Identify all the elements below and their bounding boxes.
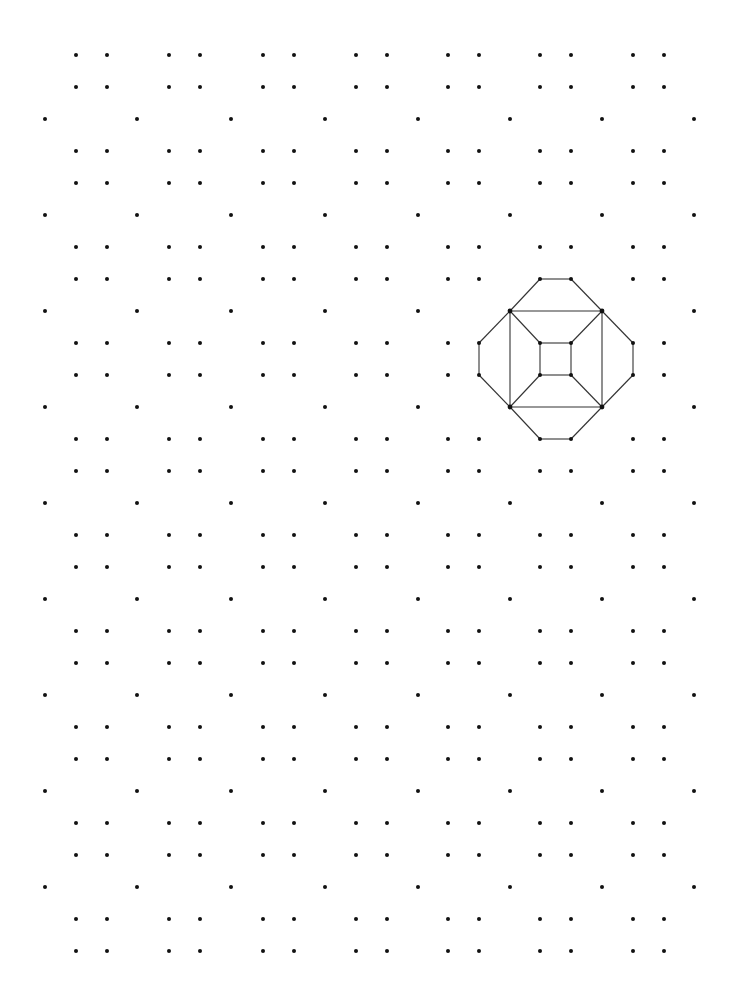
grid-dot xyxy=(74,181,78,185)
grid-dot xyxy=(600,597,604,601)
grid-dot xyxy=(662,821,666,825)
grid-dot xyxy=(261,949,265,953)
grid-dot xyxy=(43,405,47,409)
grid-dot xyxy=(538,725,542,729)
grid-dot xyxy=(662,469,666,473)
grid-dot xyxy=(74,565,78,569)
grid-dot xyxy=(105,85,109,89)
figure-vertex xyxy=(600,309,605,314)
grid-dot xyxy=(692,789,696,793)
grid-dot xyxy=(43,789,47,793)
grid-dot xyxy=(569,629,573,633)
grid-dot xyxy=(354,437,358,441)
grid-dot xyxy=(416,693,420,697)
grid-dot xyxy=(74,533,78,537)
grid-dot xyxy=(167,725,171,729)
grid-dot xyxy=(385,725,389,729)
figure-vertex xyxy=(538,373,542,377)
grid-dot xyxy=(662,85,666,89)
grid-dot xyxy=(477,469,481,473)
grid-dot xyxy=(538,565,542,569)
grid-dot xyxy=(105,469,109,473)
grid-dot xyxy=(43,213,47,217)
grid-dot xyxy=(105,437,109,441)
grid-dot xyxy=(477,917,481,921)
grid-dot xyxy=(662,437,666,441)
grid-dot xyxy=(569,725,573,729)
grid-dot xyxy=(446,149,450,153)
grid-dot xyxy=(198,53,202,57)
grid-dot xyxy=(105,725,109,729)
grid-dot xyxy=(631,437,635,441)
grid-dot xyxy=(105,373,109,377)
grid-dot xyxy=(354,85,358,89)
grid-dot xyxy=(74,629,78,633)
grid-dot xyxy=(600,117,604,121)
grid-dot xyxy=(631,181,635,185)
grid-dot xyxy=(167,277,171,281)
grid-dot xyxy=(385,373,389,377)
grid-dot xyxy=(323,693,327,697)
grid-dot xyxy=(261,533,265,537)
grid-dot xyxy=(354,341,358,345)
grid-dot xyxy=(631,757,635,761)
grid-dot xyxy=(662,341,666,345)
grid-dot xyxy=(446,757,450,761)
figure-vertex xyxy=(600,405,605,410)
grid-dot xyxy=(477,149,481,153)
grid-dot xyxy=(229,405,233,409)
grid-dot xyxy=(198,949,202,953)
grid-dot xyxy=(662,725,666,729)
grid-dot xyxy=(569,757,573,761)
grid-dot xyxy=(385,277,389,281)
grid-dot xyxy=(74,245,78,249)
grid-dot xyxy=(569,149,573,153)
grid-dot xyxy=(229,309,233,313)
grid-dot xyxy=(600,693,604,697)
grid-dot xyxy=(569,853,573,857)
grid-dot xyxy=(416,117,420,121)
grid-dot xyxy=(508,213,512,217)
grid-dot xyxy=(43,117,47,121)
grid-dot xyxy=(538,469,542,473)
figure-vertex xyxy=(569,341,573,345)
grid-dot xyxy=(261,181,265,185)
grid-dot xyxy=(446,821,450,825)
grid-dot xyxy=(446,565,450,569)
grid-dot xyxy=(477,725,481,729)
grid-dot xyxy=(692,213,696,217)
grid-dot xyxy=(354,533,358,537)
grid-dot xyxy=(292,949,296,953)
background xyxy=(0,0,739,1003)
grid-dot xyxy=(229,501,233,505)
grid-dot xyxy=(292,85,296,89)
figure-vertex xyxy=(508,309,513,314)
grid-dot xyxy=(508,789,512,793)
grid-dot xyxy=(662,757,666,761)
grid-dot xyxy=(292,533,296,537)
grid-dot xyxy=(508,597,512,601)
grid-dot xyxy=(198,725,202,729)
grid-dot xyxy=(446,341,450,345)
grid-dot xyxy=(105,629,109,633)
grid-dot xyxy=(569,85,573,89)
grid-dot xyxy=(385,949,389,953)
grid-dot xyxy=(292,629,296,633)
grid-dot xyxy=(74,821,78,825)
grid-dot xyxy=(538,661,542,665)
grid-dot xyxy=(135,885,139,889)
figure-vertex xyxy=(569,373,573,377)
grid-dot xyxy=(261,725,265,729)
grid-dot xyxy=(569,661,573,665)
grid-dot xyxy=(261,85,265,89)
grid-dot xyxy=(631,565,635,569)
grid-dot xyxy=(354,469,358,473)
grid-dot xyxy=(354,821,358,825)
grid-dot xyxy=(600,501,604,505)
grid-dot xyxy=(135,213,139,217)
grid-dot xyxy=(198,149,202,153)
grid-dot xyxy=(167,53,171,57)
grid-dot xyxy=(198,853,202,857)
grid-dot xyxy=(569,821,573,825)
grid-dot xyxy=(198,661,202,665)
